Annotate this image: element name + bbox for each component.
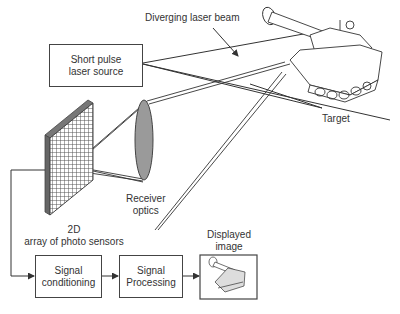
laser-box-line2: laser source [69,66,123,78]
target-label: Target [322,113,350,125]
signal-processing-box: Signal Processing [119,255,183,298]
beam-label: Diverging laser beam [145,12,240,24]
beam-pointer-arrow [213,28,238,56]
displayed-line2: image [202,241,256,253]
signal-conditioning-box: Signal conditioning [35,255,102,298]
processing-line1: Signal [137,265,165,277]
laser-box-line1: Short pulse [71,54,122,66]
displayed-image-label: Displayed image [202,229,256,253]
return-rays [66,62,290,230]
sensor-array-label: 2D array of photo sensors [20,224,128,248]
receiver-line2: optics [126,205,165,217]
array-line1: 2D [20,224,128,236]
array-line2: array of photo sensors [20,236,128,248]
receiver-optics-label: Receiver optics [126,193,165,217]
laser-source-box: Short pulse laser source [49,44,143,87]
processing-line2: Processing [126,277,175,289]
conditioning-line1: Signal [55,265,83,277]
displayed-line1: Displayed [202,229,256,241]
conditioning-line2: conditioning [42,277,95,289]
tank-icon [260,5,382,102]
lens-icon [135,100,153,180]
receiver-line1: Receiver [126,193,165,205]
sensor-grid-icon [45,100,93,215]
